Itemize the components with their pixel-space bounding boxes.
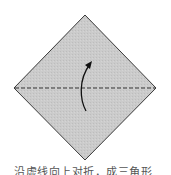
origami-diagram [0,0,171,175]
step-caption: 沿虚线向上对折，成三角形 [14,166,171,175]
